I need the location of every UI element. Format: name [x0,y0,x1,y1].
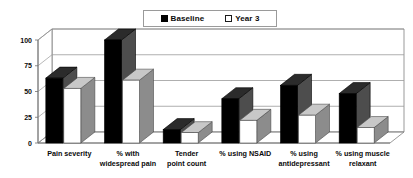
y-axis-tick-labels: 0255075100 [20,37,32,147]
chart-container: Baseline Year 3 0255075100 Pain severity… [0,0,413,178]
x-axis-category-labels: Pain severity% withwidespread painTender… [47,149,390,168]
y-tick-label: 25 [24,114,32,121]
x-category-label: % withwidespread pain [99,149,156,168]
x-category-label: Tenderpoint count [167,149,207,168]
y-tick-label: 0 [28,140,32,147]
bar-year3 [123,69,154,143]
y-tick-label: 100 [20,37,32,44]
y-tick-label: 75 [24,62,32,69]
y-tick-label: 50 [24,88,32,95]
bar-year3 [64,77,95,143]
x-category-label: % using musclerelaxant [336,149,390,168]
x-category-label: % using NSAID [219,149,271,158]
chart-plot-area: 0255075100 Pain severity% withwidespread… [0,0,413,178]
x-category-label: % usingantidepressant [278,149,330,168]
x-category-label: Pain severity [47,149,91,158]
